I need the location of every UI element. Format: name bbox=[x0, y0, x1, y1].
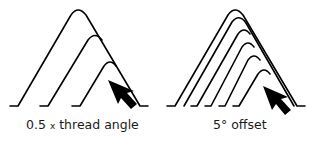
thread-profile-2 bbox=[40, 36, 102, 107]
caption-thread-angle: 0.5 x thread angle bbox=[26, 117, 139, 132]
right-diagram bbox=[167, 10, 305, 106]
thread-profile-3 bbox=[72, 62, 116, 106]
caption-offset: 5° offset bbox=[213, 117, 267, 132]
